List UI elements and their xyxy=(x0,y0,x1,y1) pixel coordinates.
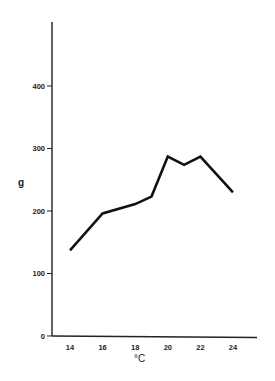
ticks: 0100200300400141618202224 xyxy=(32,82,238,352)
x-tick-label: 22 xyxy=(196,343,204,352)
y-tick-label: 400 xyxy=(32,82,45,91)
x-tick-label: 16 xyxy=(98,343,106,352)
x-tick-label: 24 xyxy=(229,343,238,352)
x-axis-label: °C xyxy=(134,353,145,364)
y-tick-label: 200 xyxy=(32,207,45,216)
y-axis-label: g xyxy=(18,177,24,188)
x-axis xyxy=(52,336,257,338)
axes xyxy=(52,22,257,338)
y-tick-label: 100 xyxy=(32,269,45,278)
y-tick-label: 0 xyxy=(41,332,45,341)
x-tick-label: 18 xyxy=(131,343,139,352)
x-tick-label: 20 xyxy=(164,343,172,352)
x-tick-label: 14 xyxy=(66,343,75,352)
y-tick-label: 300 xyxy=(32,144,45,153)
data-line xyxy=(70,157,233,251)
line-chart: 0100200300400141618202224 g °C xyxy=(0,0,275,381)
